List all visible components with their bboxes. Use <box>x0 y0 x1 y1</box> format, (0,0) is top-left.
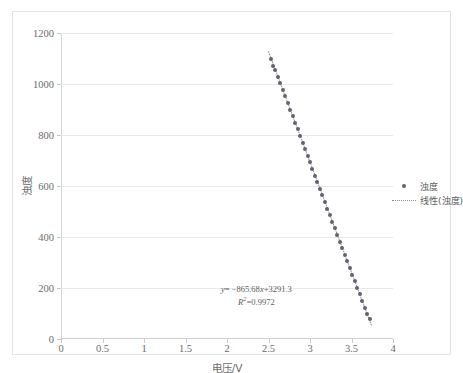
data-point <box>333 226 337 230</box>
x-tick-label: 0.5 <box>96 343 109 354</box>
data-point <box>310 167 314 171</box>
y-tick <box>57 33 61 34</box>
legend-dot-marker-icon <box>391 184 417 188</box>
data-point <box>283 94 287 98</box>
data-point <box>320 193 324 197</box>
data-point <box>298 134 302 138</box>
legend-label-trendline: 线性(浊度) <box>417 194 463 207</box>
chart-frame: 020040060080010001200 00.511.522.533.54 … <box>12 11 451 355</box>
x-tick-label: 1 <box>141 343 146 354</box>
y-tick-label: 0 <box>49 334 54 345</box>
data-point <box>308 160 312 164</box>
data-point <box>303 147 307 151</box>
gridline <box>61 237 393 238</box>
data-point <box>313 174 317 178</box>
y-tick <box>57 186 61 187</box>
data-point <box>360 299 364 303</box>
y-tick-label: 400 <box>38 232 54 243</box>
data-point <box>288 108 292 112</box>
data-point <box>325 207 329 211</box>
equation-tail: +3291.3 <box>264 284 292 294</box>
data-point <box>323 200 327 204</box>
legend-item-series[interactable]: 浊度 <box>391 179 463 193</box>
x-tick-label: 1.5 <box>179 343 192 354</box>
data-point <box>353 279 357 283</box>
y-axis-title: 浊度 <box>19 176 34 196</box>
y-tick <box>57 84 61 85</box>
x-tick-label: 2 <box>224 343 229 354</box>
data-point <box>355 286 359 290</box>
data-point <box>365 312 369 316</box>
data-point <box>301 141 305 145</box>
data-point <box>273 68 277 72</box>
data-point <box>345 259 349 263</box>
x-tick-label: 3 <box>307 343 312 354</box>
legend-dotted-line-icon <box>391 200 417 201</box>
data-point <box>358 292 362 296</box>
data-point <box>281 88 285 92</box>
equation-body: = −865.68 <box>225 284 260 294</box>
data-point <box>328 213 332 217</box>
x-tick-label: 0 <box>58 343 63 354</box>
y-tick <box>57 288 61 289</box>
x-axis-title: 电压/V <box>61 360 393 373</box>
y-tick-label: 1000 <box>33 79 54 90</box>
r-squared-line: R2=0.9972 <box>221 295 292 307</box>
gridline <box>61 186 393 187</box>
x-tick-label: 3.5 <box>345 343 358 354</box>
data-point <box>368 317 372 321</box>
data-point <box>330 220 334 224</box>
gridline <box>61 135 393 136</box>
x-tick-label: 2.5 <box>262 343 275 354</box>
data-point <box>291 114 295 118</box>
x-tick-label: 4 <box>390 343 395 354</box>
data-point <box>296 127 300 131</box>
data-point <box>363 306 367 310</box>
y-tick-label: 200 <box>38 283 54 294</box>
data-point <box>318 187 322 191</box>
legend-item-trendline[interactable]: 线性(浊度) <box>391 193 463 207</box>
data-point <box>306 154 310 158</box>
equation-line: y= −865.68x+3291.3 <box>221 284 292 295</box>
y-tick <box>57 237 61 238</box>
regression-equation-annotation: y= −865.68x+3291.3 R2=0.9972 <box>221 284 292 307</box>
gridline <box>61 84 393 85</box>
data-point <box>293 121 297 125</box>
data-point <box>315 180 319 184</box>
y-tick-label: 600 <box>38 181 54 192</box>
r-squared-value: =0.9972 <box>247 296 275 306</box>
data-point <box>276 75 280 79</box>
data-point <box>269 57 273 61</box>
data-point <box>343 253 347 257</box>
data-point <box>338 240 342 244</box>
y-tick-label: 1200 <box>33 28 54 39</box>
data-point <box>340 246 344 250</box>
gridline <box>61 33 393 34</box>
legend-label-series: 浊度 <box>417 180 438 193</box>
chart-legend: 浊度 线性(浊度) <box>391 179 463 207</box>
data-point <box>286 101 290 105</box>
y-tick-label: 800 <box>38 130 54 141</box>
data-point <box>348 266 352 270</box>
data-point <box>350 273 354 277</box>
y-tick <box>57 135 61 136</box>
